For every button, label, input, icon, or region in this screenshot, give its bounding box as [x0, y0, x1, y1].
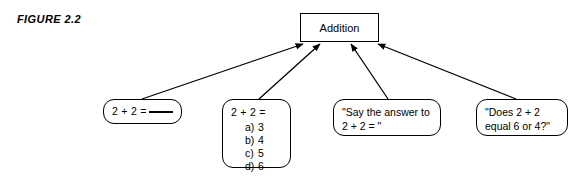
choice-item-b: b)4: [231, 134, 264, 147]
choice-item-a: a)3: [231, 121, 264, 134]
arrow-fill-in-blank-to-addition: [142, 44, 303, 99]
fill-in-blank-answer-line: [149, 111, 173, 113]
example-node-does-equal: "Does 2 + 2 equal 6 or 4?": [476, 99, 568, 136]
choice-value-a: 3: [258, 121, 264, 133]
choice-letter-d: d): [245, 160, 258, 173]
choice-value-b: 4: [258, 134, 264, 146]
figure-label: FIGURE 2.2: [17, 13, 81, 25]
say-the-answer-line-2: 2 + 2 = ": [342, 119, 381, 133]
choice-value-c: 5: [258, 147, 264, 159]
multiple-choice-stem: 2 + 2 =: [231, 106, 266, 120]
choice-item-d: d)6: [231, 160, 264, 173]
figure-diagram: FIGURE 2.2 Addition 2 + 2 = 2 + 2 = a)3 …: [0, 0, 581, 190]
arrow-connectors: [0, 0, 581, 190]
choice-letter-b: b): [245, 134, 258, 147]
choice-item-c: c)5: [231, 147, 264, 160]
choice-letter-a: a): [245, 121, 258, 134]
example-node-say-the-answer: "Say the answer to 2 + 2 = ": [333, 99, 441, 136]
concept-node-addition: Addition: [300, 13, 379, 42]
choice-value-d: 6: [258, 160, 264, 172]
does-equal-line-2: equal 6 or 4?": [485, 119, 550, 133]
example-node-multiple-choice: 2 + 2 = a)3 b)4 c)5 d)6: [222, 99, 291, 168]
choice-letter-c: c): [245, 147, 258, 160]
does-equal-line-1: "Does 2 + 2: [485, 105, 540, 119]
fill-in-blank-equation: 2 + 2 =: [112, 105, 147, 119]
arrow-multiple-choice-to-addition: [259, 44, 320, 99]
example-node-fill-in-blank: 2 + 2 =: [103, 99, 182, 124]
say-the-answer-line-1: "Say the answer to: [342, 105, 430, 119]
multiple-choice-list: a)3 b)4 c)5 d)6: [231, 121, 264, 173]
concept-node-label: Addition: [320, 22, 360, 34]
arrow-say-the-answer-to-addition: [351, 44, 388, 99]
arrow-does-equal-to-addition: [378, 44, 516, 99]
